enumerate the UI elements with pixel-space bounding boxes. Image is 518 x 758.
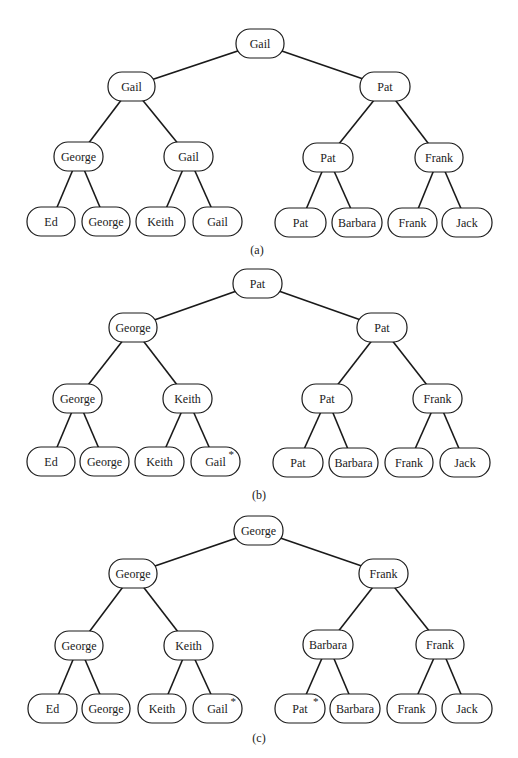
- node-label: Jack: [456, 702, 477, 716]
- tree-node: Pat: [273, 448, 323, 477]
- node-label: Pat: [250, 277, 266, 291]
- asterisk-mark: *: [231, 695, 237, 707]
- tree-node: George: [82, 694, 130, 723]
- node-label: Ed: [44, 215, 57, 229]
- tree-node: Keith: [163, 384, 212, 413]
- node-label: George: [87, 455, 122, 469]
- node-label: Gail: [178, 150, 199, 164]
- node-label: Frank: [399, 216, 427, 230]
- tree-node: George: [53, 384, 102, 413]
- tree-node: Gail: [236, 29, 284, 58]
- figure-caption: (c): [252, 731, 265, 745]
- node-label: Keith: [146, 455, 173, 469]
- trees-layer: GailGailPatGeorgeGailPatFrankEdGeorgeKei…: [27, 29, 492, 745]
- node-label: Gail: [121, 80, 142, 94]
- tree-edges: [51, 44, 467, 223]
- tree-node: Barbara: [330, 694, 380, 723]
- tree-node: Jack: [442, 208, 492, 237]
- tree-node: George: [109, 559, 157, 588]
- tree-a: GailGailPatGeorgeGailPatFrankEdGeorgeKei…: [27, 29, 492, 257]
- node-label: Barbara: [338, 216, 377, 230]
- tree-node: Barbara: [303, 630, 353, 659]
- tree-node: Pat*: [275, 694, 325, 723]
- tree-node: Jack: [442, 694, 492, 723]
- node-label: George: [61, 150, 96, 164]
- tree-node: George: [80, 447, 129, 476]
- node-label: Jack: [454, 456, 475, 470]
- tree-node: Pat: [275, 208, 326, 237]
- node-label: George: [61, 639, 96, 653]
- node-label: Keith: [174, 392, 201, 406]
- tree-node: Frank: [415, 143, 463, 172]
- tree-edges: [53, 531, 468, 709]
- node-label: Pat: [290, 456, 306, 470]
- tree-node: Frank: [387, 694, 436, 723]
- tree-node: George: [109, 313, 157, 342]
- tree-node: Barbara: [332, 208, 382, 237]
- node-label: Gail: [207, 215, 228, 229]
- node-label: Barbara: [309, 638, 348, 652]
- asterisk-mark: *: [313, 695, 319, 707]
- node-label: Barbara: [335, 456, 374, 470]
- tree-node: George: [54, 142, 103, 171]
- node-label: Frank: [426, 638, 454, 652]
- tree-c: GeorgeGeorgeFrankGeorgeKeithBarbaraFrank…: [28, 516, 492, 745]
- node-label: Pat: [320, 151, 336, 165]
- tree-node: Keith: [135, 447, 184, 476]
- figure-caption: (b): [252, 488, 266, 502]
- tree-node: Pat: [302, 384, 352, 413]
- node-label: Pat: [319, 392, 335, 406]
- tree-node: George: [234, 516, 283, 545]
- tree-node: Pat: [303, 143, 353, 172]
- node-label: Gail: [207, 702, 228, 716]
- tree-node: Frank: [388, 208, 437, 237]
- node-label: George: [88, 702, 123, 716]
- tree-node: George: [82, 207, 130, 236]
- tree-node: Frank: [359, 559, 408, 588]
- node-label: Frank: [425, 151, 453, 165]
- node-label: Keith: [147, 215, 174, 229]
- node-label: Jack: [456, 216, 477, 230]
- node-label: Pat: [374, 321, 390, 335]
- tree-node: Gail: [108, 72, 155, 101]
- tree-node: Gail*: [193, 694, 242, 723]
- tree-node: Frank: [385, 448, 433, 477]
- tree-node: Keith: [136, 207, 185, 236]
- node-label: Frank: [395, 456, 423, 470]
- node-label: Barbara: [336, 702, 375, 716]
- node-label: Frank: [398, 702, 426, 716]
- tree-node: Barbara: [329, 448, 378, 477]
- tree-node: Pat: [357, 313, 407, 342]
- node-label: George: [60, 392, 95, 406]
- node-label: George: [115, 567, 150, 581]
- node-label: George: [115, 321, 150, 335]
- tree-node: Ed: [28, 694, 77, 723]
- tree-node: Ed: [27, 207, 75, 236]
- node-label: Keith: [149, 702, 176, 716]
- node-label: George: [88, 215, 123, 229]
- node-label: Pat: [293, 216, 309, 230]
- tree-node: Frank: [413, 384, 462, 413]
- tree-b: PatGeorgePatGeorgeKeithPatFrankEdGeorgeK…: [27, 269, 490, 502]
- node-label: Pat: [377, 80, 393, 94]
- tree-node: Jack: [440, 448, 490, 477]
- tree-node: Frank: [416, 630, 464, 659]
- node-label: Frank: [370, 567, 398, 581]
- tree-node: Gail: [164, 142, 213, 171]
- node-label: Ed: [46, 702, 59, 716]
- node-label: Ed: [44, 455, 57, 469]
- node-label: Gail: [205, 455, 226, 469]
- tree-node: Keith: [138, 694, 186, 723]
- node-label: Pat: [292, 702, 308, 716]
- node-label: Gail: [250, 37, 271, 51]
- tournament-tree-figure: GailGailPatGeorgeGailPatFrankEdGeorgeKei…: [0, 0, 518, 758]
- node-label: Keith: [175, 639, 202, 653]
- tree-node: Pat: [360, 72, 410, 101]
- tree-edges: [51, 284, 465, 463]
- node-label: Frank: [424, 392, 452, 406]
- figure-caption: (a): [250, 243, 263, 257]
- tree-node: Gail: [193, 207, 242, 236]
- tree-node: Keith: [164, 631, 213, 660]
- node-label: George: [241, 524, 276, 538]
- tree-node: Pat: [233, 269, 282, 298]
